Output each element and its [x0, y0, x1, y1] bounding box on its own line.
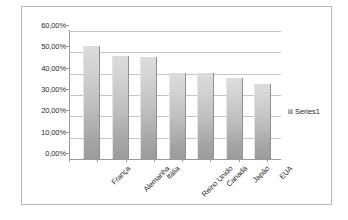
bar-alemanha[interactable]: [112, 56, 129, 159]
bar-reino-unido[interactable]: [169, 73, 186, 159]
x-tick-mark: [69, 159, 70, 162]
category-label-reino-unido: Reino Unido: [200, 164, 235, 199]
category-label-franca: França: [110, 164, 132, 186]
chart-frame: 60,00% 50,00% 40,00% 30,00% 20,00% 10,00…: [21, 6, 332, 205]
y-tick-label: 20,00%: [41, 106, 66, 115]
bar-eua[interactable]: [254, 84, 271, 159]
gridline-60: [69, 31, 281, 32]
y-tick-label: 0,00%: [45, 149, 66, 158]
category-label-italia: Itália: [164, 164, 181, 181]
chart-legend[interactable]: Series1: [288, 107, 320, 116]
bar-japao[interactable]: [226, 78, 243, 159]
category-label-japao: Japão: [251, 164, 271, 184]
x-tick-mark: [154, 159, 155, 162]
category-label-canada: Canadá: [225, 164, 250, 189]
y-tick-mark: [66, 25, 69, 26]
x-tick-mark: [182, 159, 183, 162]
gridline-baseline-0: [69, 159, 281, 160]
x-tick-mark: [210, 159, 211, 162]
x-tick-mark: [97, 159, 98, 162]
y-axis-labels: 60,00% 50,00% 40,00% 30,00% 20,00% 10,00…: [22, 7, 66, 206]
y-tick-label: 30,00%: [41, 85, 66, 94]
x-tick-mark: [267, 159, 268, 162]
bar-franca[interactable]: [83, 46, 100, 159]
y-tick-label: 40,00%: [41, 63, 66, 72]
bar-italia[interactable]: [140, 57, 157, 159]
y-tick-label: 10,00%: [41, 127, 66, 136]
legend-swatch-icon: [288, 109, 293, 114]
x-tick-mark: [126, 159, 127, 162]
category-label-alemanha: Alemanha: [142, 164, 172, 194]
bar-canada[interactable]: [197, 73, 214, 159]
category-label-eua: EUA: [277, 164, 294, 181]
plot-area: [69, 31, 281, 159]
legend-entry-series1: Series1: [295, 107, 320, 116]
x-tick-mark: [239, 159, 240, 162]
y-tick-label: 50,00%: [41, 42, 66, 51]
y-tick-label: 60,00%: [41, 21, 66, 30]
gridline-50: [69, 52, 281, 53]
